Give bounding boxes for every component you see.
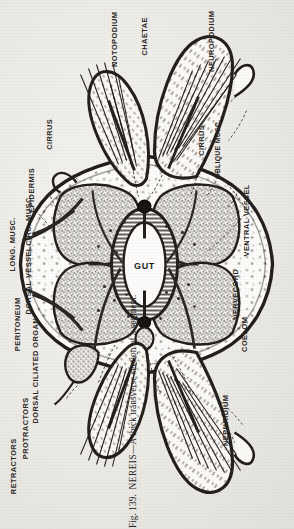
label-oblique-musc: OBLIQUE MUSC.	[214, 118, 223, 180]
nephridium-group	[54, 345, 98, 404]
label-notopodium: NOTOPODIUM	[111, 0, 120, 81]
cirrus-lower	[234, 432, 253, 463]
figure-organism: NEREIS	[128, 454, 138, 490]
label-chaetae: CHAETAE	[141, 5, 150, 67]
label-long-musc: LONG. MUSC.	[9, 211, 18, 277]
nephridium-duct	[54, 380, 74, 404]
figure-caption: Fig. 139. NEREIS—A thick transverse sect…	[128, 228, 138, 528]
label-dorsal-ciliated-organ: DORSAL CILIATED ORGAN	[31, 316, 40, 426]
figure-plate: GUT	[0, 0, 294, 529]
label-coelom: COELOM	[241, 306, 250, 362]
nephridium	[65, 345, 98, 382]
figure-caption-tail: —A thick transverse section of a segment…	[128, 295, 138, 454]
cirrus-upper	[234, 65, 253, 96]
label-cirrus-lower: CIRRUS	[198, 114, 207, 166]
label-nephridium: NEPHRIDIUM	[222, 378, 231, 462]
label-protractors: PROTRACTORS	[22, 389, 31, 467]
label-peritoneum: PERITONEUM	[14, 286, 23, 362]
figure-number: Fig. 139.	[128, 494, 138, 528]
leader-notopodium	[228, 110, 246, 140]
label-dorsal-vessel: DORSAL VESSEL	[25, 238, 34, 322]
label-cirrus-upper: CIRRUS	[46, 108, 55, 160]
label-ventral-vessel: VENTRAL VESSEL	[243, 174, 252, 266]
label-retractors: RETRACTORS	[10, 428, 19, 504]
label-neuropodium: NEUROPODIUM	[208, 0, 217, 87]
